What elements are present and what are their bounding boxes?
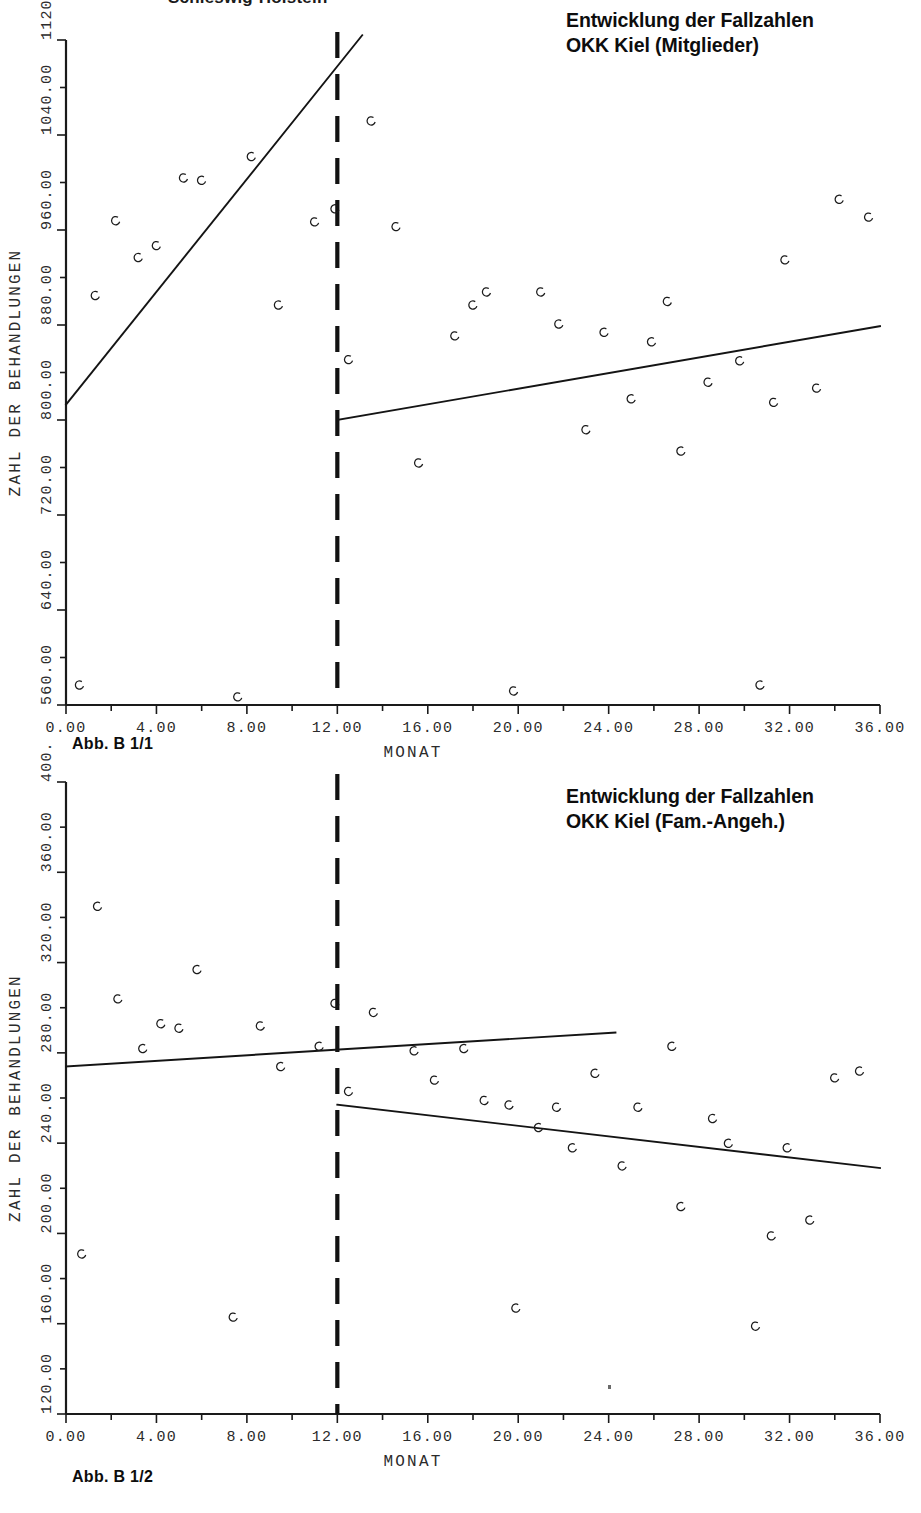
y-tick-label: 120.00 bbox=[39, 1353, 56, 1414]
data-point-marker bbox=[78, 1250, 86, 1258]
data-point-marker bbox=[139, 1044, 147, 1052]
chart-title-line-2: OKK Kiel (Mitglieder) bbox=[566, 33, 814, 58]
data-point-marker bbox=[75, 681, 83, 689]
data-point-marker bbox=[93, 902, 101, 910]
y-tick-label: 1120.00 bbox=[39, 0, 56, 40]
y-tick-label: 360.00 bbox=[39, 811, 56, 872]
data-point-marker bbox=[193, 965, 201, 973]
x-tick-label: 24.00 bbox=[583, 720, 634, 737]
data-point-marker bbox=[634, 1103, 642, 1111]
chart-group: 560.00640.00720.00800.00880.00960.001040… bbox=[7, 0, 906, 760]
data-point-marker bbox=[783, 1144, 791, 1152]
scanned-figure-page: Schleswig-Holstein 560.00640.00720.00800… bbox=[0, 0, 921, 1513]
data-point-marker bbox=[510, 687, 518, 695]
y-tick-label: 720.00 bbox=[39, 454, 56, 515]
data-point-marker bbox=[234, 693, 242, 701]
x-tick-label: 28.00 bbox=[674, 720, 725, 737]
data-point-marker bbox=[552, 1103, 560, 1111]
data-point-marker bbox=[415, 459, 423, 467]
chart-title-line-1: Entwicklung der Fallzahlen bbox=[566, 8, 814, 33]
data-point-marker bbox=[751, 1322, 759, 1330]
x-tick-label: 16.00 bbox=[402, 720, 453, 737]
x-axis-title: MONAT bbox=[383, 1453, 442, 1471]
y-tick-label: 320.00 bbox=[39, 901, 56, 962]
data-point-marker bbox=[600, 328, 608, 336]
y-tick-label: 800.00 bbox=[39, 359, 56, 420]
x-tick-label: 20.00 bbox=[493, 1429, 544, 1446]
chart-canvas-mitglieder: 560.00640.00720.00800.00880.00960.001040… bbox=[0, 0, 921, 760]
data-point-marker bbox=[480, 1096, 488, 1104]
x-tick-label: 20.00 bbox=[493, 720, 544, 737]
trend-line-post-intervention bbox=[337, 326, 880, 420]
data-point-marker bbox=[311, 218, 319, 226]
data-point-marker bbox=[865, 213, 873, 221]
data-point-marker bbox=[770, 398, 778, 406]
data-point-marker bbox=[91, 291, 99, 299]
data-point-marker bbox=[157, 1020, 165, 1028]
y-tick-label: 280.00 bbox=[39, 992, 56, 1053]
data-point-marker bbox=[618, 1162, 626, 1170]
x-tick-label: 4.00 bbox=[136, 1429, 177, 1446]
figure-familienangehoerige: 120.00160.00200.00240.00280.00320.00360.… bbox=[0, 742, 921, 1513]
data-point-marker bbox=[179, 174, 187, 182]
y-axis-title: ZAHL DER BEHANDLUNGEN bbox=[7, 974, 25, 1222]
data-point-marker bbox=[505, 1101, 513, 1109]
x-tick-label: 24.00 bbox=[583, 1429, 634, 1446]
chart-title-familienangehoerige: Entwicklung der Fallzahlen OKK Kiel (Fam… bbox=[566, 784, 814, 834]
y-tick-label: 400.00 bbox=[39, 742, 56, 782]
data-point-marker bbox=[677, 447, 685, 455]
data-point-marker bbox=[591, 1069, 599, 1077]
y-tick-label: 200.00 bbox=[39, 1172, 56, 1233]
data-point-marker bbox=[704, 378, 712, 386]
data-point-marker bbox=[855, 1067, 863, 1075]
x-tick-label: 8.00 bbox=[226, 1429, 267, 1446]
data-point-marker bbox=[709, 1114, 717, 1122]
data-point-marker bbox=[256, 1022, 264, 1030]
chart-group: 120.00160.00200.00240.00280.00320.00360.… bbox=[7, 742, 906, 1471]
data-point-marker bbox=[555, 320, 563, 328]
data-point-marker bbox=[781, 256, 789, 264]
trend-line-pre-intervention bbox=[66, 35, 362, 404]
data-point-marker bbox=[175, 1024, 183, 1032]
data-point-marker bbox=[724, 1139, 732, 1147]
y-tick-label: 1040.00 bbox=[39, 64, 56, 135]
data-point-marker bbox=[767, 1232, 775, 1240]
x-tick-label: 36.00 bbox=[854, 720, 905, 737]
x-tick-label: 12.00 bbox=[312, 1429, 363, 1446]
data-point-marker bbox=[512, 1304, 520, 1312]
y-tick-label: 960.00 bbox=[39, 169, 56, 230]
x-tick-label: 32.00 bbox=[764, 720, 815, 737]
data-point-marker bbox=[344, 1087, 352, 1095]
data-point-marker bbox=[114, 995, 122, 1003]
chart-title-mitglieder: Entwicklung der Fallzahlen OKK Kiel (Mit… bbox=[566, 8, 814, 58]
data-point-marker bbox=[367, 117, 375, 125]
data-point-marker bbox=[835, 195, 843, 203]
data-point-marker bbox=[229, 1313, 237, 1321]
data-point-marker bbox=[410, 1047, 418, 1055]
data-point-marker bbox=[627, 395, 635, 403]
data-point-marker bbox=[247, 152, 255, 160]
x-tick-label: 8.00 bbox=[226, 720, 267, 737]
data-point-marker bbox=[756, 681, 764, 689]
chart-canvas-familienangehoerige: 120.00160.00200.00240.00280.00320.00360.… bbox=[0, 742, 921, 1513]
data-point-marker bbox=[537, 288, 545, 296]
data-point-marker bbox=[369, 1008, 377, 1016]
data-point-marker bbox=[806, 1216, 814, 1224]
data-point-marker bbox=[460, 1044, 468, 1052]
data-point-marker bbox=[392, 223, 400, 231]
x-tick-label: 32.00 bbox=[764, 1429, 815, 1446]
data-point-marker bbox=[469, 301, 477, 309]
chart-title-line-1: Entwicklung der Fallzahlen bbox=[566, 784, 814, 809]
data-point-marker bbox=[568, 1144, 576, 1152]
data-point-marker bbox=[451, 332, 459, 340]
data-point-marker bbox=[112, 217, 120, 225]
y-tick-label: 560.00 bbox=[39, 644, 56, 705]
data-point-marker bbox=[582, 426, 590, 434]
y-tick-label: 240.00 bbox=[39, 1082, 56, 1143]
data-point-marker bbox=[274, 301, 282, 309]
trend-line-pre-intervention bbox=[66, 1033, 615, 1067]
figure-caption-2: Abb. B 1/2 bbox=[72, 1468, 153, 1486]
y-tick-label: 640.00 bbox=[39, 549, 56, 610]
data-point-marker bbox=[315, 1042, 323, 1050]
data-point-marker bbox=[736, 357, 744, 365]
